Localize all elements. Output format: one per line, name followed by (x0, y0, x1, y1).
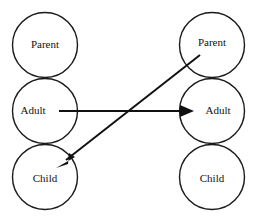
arrow-adult-to-adult[interactable] (59, 105, 194, 117)
label-right-child: Child (200, 172, 225, 184)
label-right-parent: Parent (198, 36, 226, 48)
label-right-adult: Adult (205, 104, 230, 116)
label-left-child: Child (33, 172, 58, 184)
diagram-canvas: Parent Adult Child Parent Adult Child (0, 0, 256, 222)
label-left-adult: Adult (20, 104, 45, 116)
label-left-parent: Parent (31, 38, 59, 50)
transaction-diagram: Parent Adult Child Parent Adult Child (0, 0, 256, 222)
